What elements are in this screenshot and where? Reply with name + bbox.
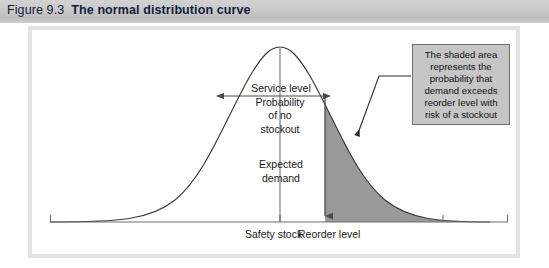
figure-title: The normal distribution curve <box>71 3 250 17</box>
axis-label-safety-stock: Safety stock <box>245 228 302 240</box>
expected-demand-annotation: Expected demand <box>238 158 324 185</box>
expected-demand-line-2: demand <box>238 172 324 186</box>
axis-label-reorder-level: Reorder level <box>298 228 360 240</box>
callout-line-3: probability that <box>424 73 497 85</box>
service-level-line-4: stockout <box>234 123 326 137</box>
callout-line-4: demand exceeds <box>424 85 497 97</box>
expected-demand-line-1: Expected <box>238 158 324 172</box>
figure-page: Figure 9.3The normal distribution curve <box>0 0 549 268</box>
figure-caption-bar: Figure 9.3The normal distribution curve <box>0 0 549 23</box>
service-level-line-1: Service level <box>236 82 326 96</box>
service-level-line-3: of no <box>234 109 326 123</box>
callout-line-2: represents the <box>424 61 497 73</box>
callout-text: The shaded area represents the probabili… <box>424 49 497 121</box>
callout-line-5: reorder level with <box>424 97 497 109</box>
figure-caption-text: Figure 9.3The normal distribution curve <box>7 3 251 17</box>
service-level-annotation: Service level Probability of no stockout <box>234 82 326 136</box>
shaded-area-callout-box: The shaded area represents the probabili… <box>412 44 510 125</box>
callout-line-6: risk of a stockout <box>424 109 497 121</box>
figure-number: Figure 9.3 <box>7 3 64 17</box>
callout-line-1: The shaded area <box>424 49 497 61</box>
service-level-line-2: Probability <box>234 96 326 110</box>
